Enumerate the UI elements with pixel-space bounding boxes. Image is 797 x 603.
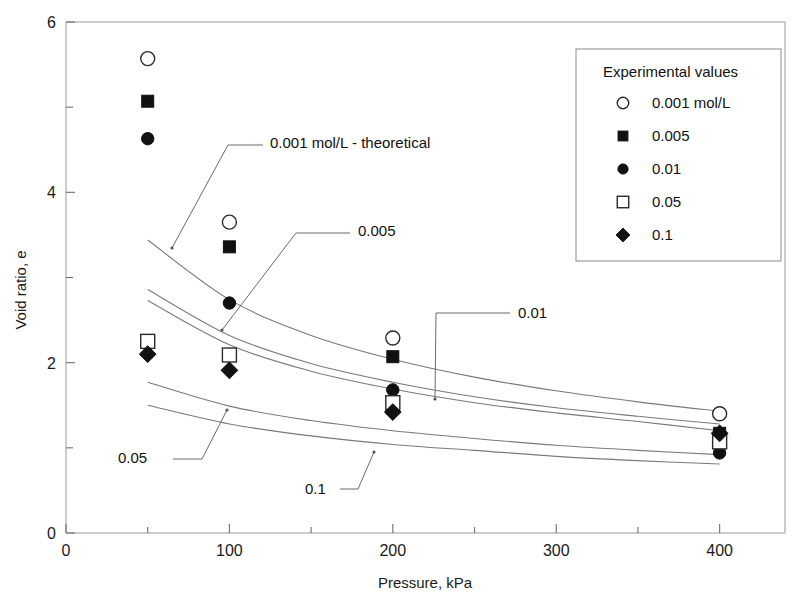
x-tick-label: 0 (62, 542, 71, 559)
marker-open-circle (222, 215, 236, 229)
marker-filled-circle (142, 132, 154, 144)
leader-001 (435, 313, 510, 399)
y-tick-label: 0 (47, 525, 56, 542)
marker-open-circle (141, 52, 155, 66)
marker-open-circle (713, 407, 727, 421)
theoretical-curve (148, 382, 720, 454)
x-axis-ticks (66, 524, 720, 533)
y-tick-label: 2 (47, 355, 56, 372)
legend-title: Experimental values (603, 63, 738, 80)
y-tick-label: 4 (47, 184, 56, 201)
leader-dot-005 (225, 408, 228, 411)
leader-dot-0001 (170, 246, 173, 249)
marker-filled-square (142, 95, 154, 107)
marker-filled-square (387, 351, 399, 363)
legend-item-label: 0.01 (652, 160, 681, 177)
curve-annotation-label: 0.001 mol/L - theoretical (270, 134, 430, 151)
leader-0005 (222, 233, 350, 330)
chart-root: 0100200300400 0246 Pressure, kPa Void ra… (0, 0, 797, 603)
leader-dot-0005 (220, 328, 223, 331)
legend-item-label: 0.1 (652, 226, 673, 243)
marker-filled-square (618, 131, 628, 141)
legend-item-label: 0.005 (652, 127, 690, 144)
legend: Experimental values 0.001 mol/L0.0050.01… (576, 49, 781, 261)
x-tick-label: 400 (706, 542, 733, 559)
marker-open-circle (386, 331, 400, 345)
curve-annotation-label: 0.01 (518, 304, 547, 321)
legend-box (576, 49, 781, 261)
legend-item-label: 0.05 (652, 193, 681, 210)
leader-dot-01 (372, 450, 375, 453)
leader-01 (340, 452, 374, 489)
marker-open-square (222, 348, 236, 362)
y-tick-label: 6 (47, 14, 56, 31)
y-axis-ticks (66, 22, 75, 533)
y-axis-tick-labels: 0246 (47, 14, 56, 542)
x-axis-tick-labels: 0100200300400 (62, 542, 734, 559)
x-tick-label: 200 (379, 542, 406, 559)
marker-filled-circle (618, 164, 628, 174)
curve-annotation-label: 0.1 (305, 480, 326, 497)
x-tick-label: 100 (216, 542, 243, 559)
curve-annotations: 0.001 mol/L - theoretical0.0050.010.050.… (118, 134, 547, 497)
x-axis-title: Pressure, kPa (378, 574, 473, 591)
marker-open-circle (617, 97, 628, 108)
void-ratio-vs-pressure-chart: 0100200300400 0246 Pressure, kPa Void ra… (0, 0, 797, 603)
marker-filled-circle (387, 384, 399, 396)
legend-item-label: 0.001 mol/L (652, 94, 730, 111)
curve-annotation-label: 0.005 (358, 222, 396, 239)
series-0-05 (141, 334, 727, 448)
marker-open-square (617, 196, 628, 207)
y-axis-title: Void ratio, e (12, 250, 29, 329)
marker-filled-diamond (221, 362, 238, 379)
marker-filled-circle (223, 297, 235, 309)
x-tick-label: 300 (543, 542, 570, 559)
leader-0001-theoretical (172, 145, 263, 248)
leader-dot-001 (433, 397, 436, 400)
marker-filled-square (223, 241, 235, 253)
theoretical-curve (148, 240, 720, 411)
curve-annotation-label: 0.05 (118, 449, 147, 466)
